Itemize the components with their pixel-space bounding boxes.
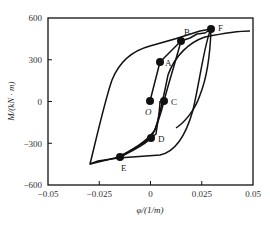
label-B: B [184, 27, 190, 37]
x-axis: −0.05 −0.025 0 0.025 0.05 φ/(1/m) [38, 181, 262, 215]
point-E [116, 153, 124, 161]
x-tick-label: −0.05 [38, 189, 59, 199]
y-axis-label: M/(kN · m) [6, 81, 16, 121]
point-D [147, 134, 155, 142]
x-tick-label: 0 [148, 189, 153, 199]
label-C: C [171, 97, 177, 107]
x-tick-label: 0.025 [192, 189, 213, 199]
point-F [207, 25, 215, 33]
point-O [146, 97, 154, 105]
x-tick-label: 0.05 [245, 189, 261, 199]
point-C [160, 97, 168, 105]
label-D: D [158, 134, 165, 144]
y-tick-label: 300 [29, 55, 43, 65]
inner-loop-return [120, 101, 160, 157]
y-axis: 600 300 0 −300 −600 M/(kN · m) [6, 13, 52, 190]
label-A: A [165, 58, 172, 68]
label-O: O [145, 107, 152, 117]
path-OA [150, 41, 181, 101]
hysteresis-chart: 600 300 0 −300 −600 M/(kN · m) −0.05 −0.… [0, 0, 270, 226]
label-E: E [121, 163, 127, 173]
point-labels: O A B F C D E [121, 23, 223, 173]
point-B [177, 37, 185, 45]
curves [90, 29, 250, 164]
point-A [156, 58, 164, 66]
y-tick-label: 600 [29, 13, 43, 23]
y-tick-label: 0 [38, 97, 43, 107]
label-F: F [218, 23, 223, 33]
x-tick-label: −0.025 [87, 189, 113, 199]
y-tick-label: −300 [23, 139, 42, 149]
x-axis-label: φ/(1/m) [137, 205, 164, 215]
